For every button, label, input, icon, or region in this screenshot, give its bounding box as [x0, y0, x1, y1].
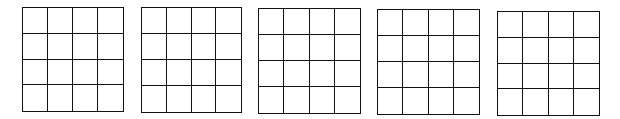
- grid-cell: [23, 34, 48, 60]
- grid-cell: [167, 86, 192, 112]
- grid-cell: [574, 12, 599, 38]
- grid-cell: [429, 88, 454, 114]
- grid-cell: [216, 60, 241, 86]
- grid-1: [22, 7, 124, 112]
- grid-cell: [403, 36, 428, 62]
- grid-cell: [454, 88, 479, 114]
- grid-cell: [142, 8, 167, 34]
- grid-cell: [259, 9, 284, 35]
- grid-cell: [284, 61, 309, 87]
- grid-cell: [167, 34, 192, 60]
- grid-cell: [523, 38, 548, 64]
- grid-cell: [48, 85, 73, 111]
- grid-cell: [498, 38, 523, 64]
- grid-cell: [142, 34, 167, 60]
- grid-cell: [523, 12, 548, 38]
- grid-5: [497, 11, 600, 116]
- grid-cell: [216, 34, 241, 60]
- grid-cell: [310, 61, 335, 87]
- grid-cell: [73, 34, 98, 60]
- grid-cell: [523, 89, 548, 115]
- grid-cell: [23, 85, 48, 111]
- grid-4: [377, 9, 480, 115]
- grid-cell: [284, 87, 309, 113]
- grid-cell: [523, 64, 548, 90]
- grid-cell: [284, 35, 309, 61]
- grid-cell: [167, 60, 192, 86]
- grid-cell: [378, 10, 403, 36]
- grid-cell: [574, 89, 599, 115]
- grid-cell: [310, 35, 335, 61]
- grid-cell: [48, 60, 73, 86]
- grid-cell: [167, 8, 192, 34]
- grid-cell: [549, 12, 574, 38]
- grid-cell: [216, 86, 241, 112]
- grid-cell: [142, 60, 167, 86]
- grid-cell: [429, 36, 454, 62]
- grid-cell: [192, 8, 217, 34]
- grid-cell: [73, 8, 98, 34]
- grid-cell: [498, 64, 523, 90]
- grid-cell: [403, 10, 428, 36]
- grid-cell: [73, 60, 98, 86]
- grid-cell: [403, 62, 428, 88]
- grid-cell: [98, 8, 123, 34]
- grid-cell: [310, 9, 335, 35]
- grid-cell: [378, 62, 403, 88]
- grid-cell: [23, 8, 48, 34]
- grid-cell: [574, 64, 599, 90]
- grid-cell: [498, 12, 523, 38]
- grid-cell: [378, 36, 403, 62]
- grid-cell: [549, 89, 574, 115]
- grid-cell: [403, 88, 428, 114]
- grid-cell: [335, 9, 360, 35]
- grid-cell: [454, 10, 479, 36]
- grid-cell: [142, 86, 167, 112]
- grid-cell: [192, 86, 217, 112]
- grid-cell: [335, 61, 360, 87]
- grid-cell: [335, 87, 360, 113]
- grid-cell: [73, 85, 98, 111]
- grid-cell: [192, 34, 217, 60]
- grid-cell: [454, 36, 479, 62]
- grid-cell: [98, 60, 123, 86]
- grid-cell: [549, 38, 574, 64]
- grid-cell: [429, 62, 454, 88]
- grid-cell: [284, 9, 309, 35]
- grid-cell: [378, 88, 403, 114]
- grid-cell: [549, 64, 574, 90]
- grid-cell: [216, 8, 241, 34]
- grid-cell: [574, 38, 599, 64]
- grid-cell: [98, 85, 123, 111]
- grid-cell: [454, 62, 479, 88]
- grid-cell: [48, 34, 73, 60]
- grid-cell: [335, 35, 360, 61]
- grid-cell: [310, 87, 335, 113]
- grid-cell: [259, 87, 284, 113]
- grid-cell: [498, 89, 523, 115]
- grid-cell: [259, 35, 284, 61]
- grid-3: [258, 8, 361, 114]
- grid-cell: [48, 8, 73, 34]
- grid-cell: [259, 61, 284, 87]
- grid-cell: [23, 60, 48, 86]
- grid-2: [141, 7, 242, 113]
- grid-cell: [192, 60, 217, 86]
- grid-cell: [429, 10, 454, 36]
- grid-cell: [98, 34, 123, 60]
